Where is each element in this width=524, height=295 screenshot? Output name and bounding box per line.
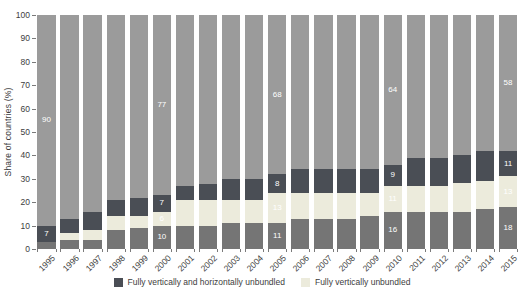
bar-2007 [314, 15, 332, 249]
x-axis-tick-mark [60, 249, 61, 252]
y-axis-tick-mark [32, 155, 36, 156]
bar-segment-bottom-dark-gray-segment [176, 226, 194, 249]
x-axis-tick-mark [240, 249, 241, 252]
bar-value-label: 9 [390, 171, 394, 179]
bar-value-label: 10 [157, 233, 166, 241]
bar-segment-bottom-dark-gray-segment [107, 230, 125, 249]
bar-2003 [222, 15, 240, 249]
y-axis-tick-mark [32, 132, 36, 133]
bar-segment-top-light-gray-segment: 68 [268, 15, 286, 174]
bar-segment-fully-vertically-unbundled [360, 193, 378, 216]
bar-1997 [83, 15, 101, 249]
bar-segment-fully-vertically-and-horizontally-unbundled [176, 186, 194, 200]
bar-segment-fully-vertically-unbundled [314, 193, 332, 219]
bar-2001 [176, 15, 194, 249]
bar-segment-top-light-gray-segment: 58 [499, 15, 517, 151]
bar-segment-top-light-gray-segment: 77 [153, 15, 171, 195]
bar-2015: 18131158 [499, 15, 517, 249]
bar-segment-fully-vertically-unbundled [83, 230, 101, 239]
x-axis-tick-mark [286, 249, 287, 252]
y-axis-tick-label: 30 [0, 174, 30, 184]
y-axis-tick-label: 10 [0, 221, 30, 231]
x-axis-tick-mark [263, 249, 264, 252]
x-axis-label-2007: 2007 [314, 253, 334, 273]
bar-segment-bottom-dark-gray-segment [453, 212, 471, 249]
x-axis-tick-mark [453, 249, 454, 252]
x-axis-tick-mark [83, 249, 84, 252]
y-axis-tick-label: 40 [0, 150, 30, 160]
bar-segment-bottom-dark-gray-segment [476, 209, 494, 249]
bar-value-label: 11 [504, 160, 512, 168]
bar-segment-bottom-dark-gray-segment [130, 228, 148, 249]
y-axis-tick-mark [32, 85, 36, 86]
bar-segment-fully-vertically-and-horizontally-unbundled [60, 219, 78, 233]
bar-2009 [360, 15, 378, 249]
y-axis-tick-label: 50 [0, 127, 30, 137]
stacked-bar-chart-figure: Share of countries (%) 01020304050607080… [0, 0, 524, 295]
bar-value-label: 58 [504, 79, 513, 87]
x-axis-label-2015: 2015 [499, 253, 519, 273]
bar-segment-bottom-dark-gray-segment [407, 212, 425, 249]
bar-value-label: 68 [273, 91, 282, 99]
bar-2012 [430, 15, 448, 249]
x-axis-tick-mark [171, 249, 172, 252]
bar-segment-fully-vertically-unbundled [453, 183, 471, 211]
x-axis-label-1999: 1999 [129, 253, 149, 273]
x-axis-tick-mark [79, 249, 80, 252]
x-axis-tick-mark [314, 249, 315, 252]
bar-segment-fully-vertically-and-horizontally-unbundled [453, 155, 471, 183]
legend-label: Fully vertically unbundled [315, 277, 410, 287]
bar-segment-bottom-dark-gray-segment [291, 219, 309, 249]
y-axis-tick-mark [32, 179, 36, 180]
bar-segment-top-light-gray-segment [360, 15, 378, 169]
x-axis-tick-mark [291, 249, 292, 252]
bar-segment-top-light-gray-segment [291, 15, 309, 169]
bar-segment-fully-vertically-and-horizontally-unbundled [430, 158, 448, 186]
bar-segment-bottom-dark-gray-segment [37, 242, 55, 249]
bar-segment-fully-vertically-and-horizontally-unbundled [360, 169, 378, 192]
x-axis-tick-mark [499, 249, 500, 252]
legend-swatch-icon [114, 278, 123, 287]
bar-1995: 790 [37, 15, 55, 249]
x-axis-tick-mark [476, 249, 477, 252]
bar-segment-fully-vertically-and-horizontally-unbundled [222, 179, 240, 200]
legend-item: Fully vertically and horizontally unbund… [114, 277, 285, 287]
bar-segment-fully-vertically-and-horizontally-unbundled: 7 [153, 195, 171, 211]
bar-segment-fully-vertically-unbundled [130, 216, 148, 228]
x-axis-tick-mark [222, 249, 223, 252]
bar-segment-bottom-dark-gray-segment [199, 226, 217, 249]
x-axis-tick-mark [448, 249, 449, 252]
x-axis-label-2006: 2006 [291, 253, 311, 273]
bar-value-label: 11 [388, 195, 396, 203]
y-axis-tick-mark [32, 249, 36, 250]
bar-segment-top-light-gray-segment [222, 15, 240, 179]
x-axis-label-2004: 2004 [245, 253, 265, 273]
x-axis-tick-mark [107, 249, 108, 252]
bar-value-label: 64 [388, 86, 397, 94]
bar-segment-bottom-dark-gray-segment [430, 212, 448, 249]
bar-segment-fully-vertically-and-horizontally-unbundled [83, 212, 101, 231]
bar-value-label: 16 [388, 226, 397, 234]
x-axis-tick-mark [268, 249, 269, 252]
bar-1998 [107, 15, 125, 249]
bar-segment-fully-vertically-unbundled [222, 200, 240, 223]
x-axis-tick-mark [153, 249, 154, 252]
x-axis-label-2000: 2000 [152, 253, 172, 273]
bar-segment-top-light-gray-segment [476, 15, 494, 151]
legend-label: Fully vertically and horizontally unbund… [128, 277, 285, 287]
x-axis-label-2001: 2001 [176, 253, 196, 273]
bar-segment-bottom-dark-gray-segment: 11 [268, 223, 286, 249]
bar-value-label: 8 [275, 180, 279, 188]
bar-segment-top-light-gray-segment: 64 [384, 15, 402, 165]
x-axis-tick-mark [130, 249, 131, 252]
y-axis-tick-mark [32, 109, 36, 110]
y-axis-tick-label: 20 [0, 197, 30, 207]
bar-segment-top-light-gray-segment: 90 [37, 15, 55, 226]
x-axis-tick-mark [199, 249, 200, 252]
x-axis-tick-mark [337, 249, 338, 252]
bar-segment-fully-vertically-and-horizontally-unbundled [337, 169, 355, 192]
bar-segment-bottom-dark-gray-segment [245, 223, 263, 249]
bar-2008 [337, 15, 355, 249]
legend: Fully vertically and horizontally unbund… [0, 277, 524, 287]
bar-segment-fully-vertically-and-horizontally-unbundled: 8 [268, 174, 286, 193]
